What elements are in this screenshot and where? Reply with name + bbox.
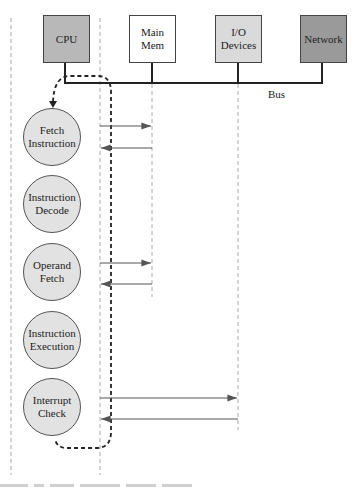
main-mem-label: Main Mem: [141, 26, 164, 52]
io-devices-label: I/O Devices: [221, 26, 256, 52]
main-mem-box: Main Mem: [129, 15, 176, 63]
step-label: Operand Fetch: [33, 259, 71, 285]
step-label: Instruction Decode: [28, 191, 76, 217]
network-box: Network: [300, 15, 347, 63]
step-operand-fetch: Operand Fetch: [23, 243, 81, 301]
message-arrows: [100, 126, 238, 419]
network-label: Network: [304, 33, 343, 46]
step-label: Fetch Instruction: [28, 124, 76, 150]
step-label: Instruction Execution: [28, 327, 76, 353]
cpu-box: CPU: [43, 15, 90, 63]
loop-arrowhead-icon: [49, 101, 57, 108]
cpu-label: CPU: [56, 33, 77, 46]
io-devices-box: I/O Devices: [215, 15, 262, 63]
step-interrupt-check: Interrupt Check: [23, 378, 81, 436]
bus-label: Bus: [268, 88, 285, 100]
step-label: Interrupt Check: [33, 394, 71, 420]
figure-caption-clipped: [0, 484, 200, 489]
step-instruction-execution: Instruction Execution: [23, 311, 81, 369]
step-instruction-decode: Instruction Decode: [23, 175, 81, 233]
step-fetch-instruction: Fetch Instruction: [23, 108, 81, 166]
bus: [64, 63, 323, 83]
